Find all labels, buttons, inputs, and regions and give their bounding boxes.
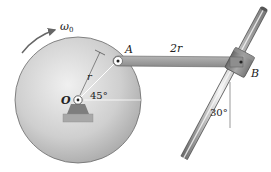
label-O: O [61, 94, 71, 107]
inclined-rod [184, 6, 269, 159]
pivot-O [74, 96, 82, 104]
pin-A [114, 57, 123, 66]
mechanism-diagram: ω0 A 2r B O r 45° 30° [0, 0, 271, 172]
label-A: A [124, 43, 133, 56]
label-link-length: 2r [169, 42, 183, 55]
omega-label: ω0 [60, 20, 73, 34]
label-angle-30: 30° [210, 107, 228, 118]
label-B: B [250, 67, 259, 80]
pin-B [239, 60, 242, 63]
label-angle-45: 45° [90, 90, 108, 101]
link-AB [113, 56, 243, 67]
